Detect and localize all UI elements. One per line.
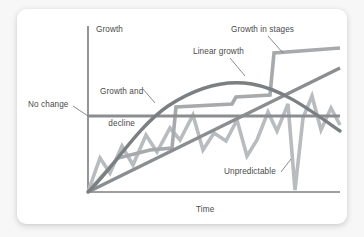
leader-line-unpredictable: [281, 159, 291, 172]
callout-linear-growth: Linear growth: [193, 47, 244, 58]
leader-line-growth-in-stages: [268, 36, 283, 53]
callout-growth-and-decline-line2: decline: [100, 119, 143, 130]
x-axis-title: Time: [196, 205, 214, 216]
callout-no-change: No change: [28, 100, 69, 111]
leader-line-growth-and-decline: [143, 89, 155, 103]
leader-line-linear-growth: [230, 58, 245, 76]
callout-growth-and-decline: Growth and decline: [100, 66, 143, 150]
callout-unpredictable: Unpredictable: [224, 167, 276, 178]
leader-line-no-change: [73, 106, 88, 116]
callout-growth-in-stages: Growth in stages: [231, 25, 294, 36]
screenshot-root: Growth Time No change Growth and decline…: [0, 0, 364, 237]
callout-growth-and-decline-line1: Growth and: [100, 87, 143, 98]
y-axis-title: Growth: [96, 25, 123, 36]
growth-patterns-chart: [0, 0, 364, 237]
